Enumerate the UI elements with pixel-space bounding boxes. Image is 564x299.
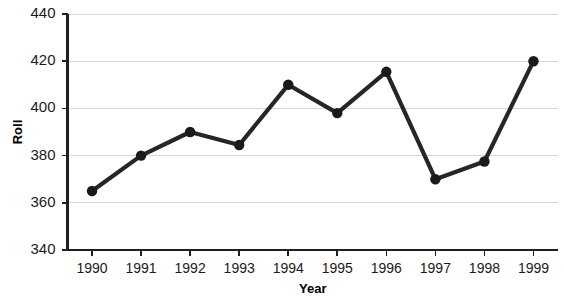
data-point: [479, 156, 489, 166]
data-point: [332, 108, 342, 118]
x-axis-tick-labels: 1990199119921993199419951996199719981999: [76, 260, 549, 276]
y-axis-tick-label: 400: [30, 98, 55, 115]
x-axis-tick-label: 1990: [76, 260, 107, 276]
x-axis-title: Year: [299, 281, 326, 296]
data-point: [528, 56, 538, 66]
x-axis-tick-label: 1996: [371, 260, 402, 276]
data-point: [283, 80, 293, 90]
data-point: [430, 174, 440, 184]
y-axis-tick-label: 380: [30, 146, 55, 163]
x-axis-tick-label: 1994: [273, 260, 304, 276]
data-point: [185, 127, 195, 137]
data-point: [234, 140, 244, 150]
x-axis-tick-label: 1992: [175, 260, 206, 276]
line-chart: 340360380400420440 199019911992199319941…: [0, 0, 564, 299]
data-line-roll: [92, 61, 533, 191]
y-axis-title: Roll: [10, 120, 25, 145]
data-point-markers: [87, 56, 539, 196]
data-point: [136, 150, 146, 160]
x-axis-tick-label: 1993: [224, 260, 255, 276]
data-point: [381, 67, 391, 77]
x-axis-tick-label: 1997: [420, 260, 451, 276]
y-axis-tick-label: 420: [30, 51, 55, 68]
y-axis-tick-labels: 340360380400420440: [30, 4, 55, 257]
x-axis-tick-label: 1995: [322, 260, 353, 276]
x-axis-tick-label: 1998: [469, 260, 500, 276]
x-axis-tick-label: 1999: [518, 260, 549, 276]
y-axis-tick-label: 440: [30, 4, 55, 21]
y-axis-tick-label: 340: [30, 240, 55, 257]
chart-canvas: 340360380400420440 199019911992199319941…: [0, 0, 564, 299]
data-point: [87, 186, 97, 196]
gridlines: [68, 14, 559, 250]
x-axis-tick-label: 1991: [125, 260, 156, 276]
y-axis-tick-label: 360: [30, 193, 55, 210]
